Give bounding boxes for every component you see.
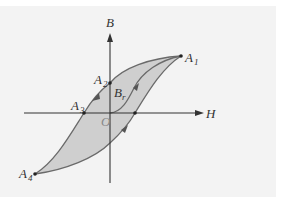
svg-text:A: A [184, 50, 193, 65]
point-a2 [108, 81, 112, 85]
svg-text:A: A [70, 98, 79, 113]
b-axis-arrow-icon [107, 33, 113, 42]
svg-text:A: A [18, 166, 27, 181]
label-a4: A 4 [18, 166, 33, 183]
label-a1: A 1 [184, 50, 199, 67]
h-axis-label: H [205, 106, 216, 121]
svg-text:3: 3 [79, 105, 85, 115]
b-axis-label: B [106, 15, 114, 30]
hysteresis-diagram: B H O A 1 A 2 B r A 3 A 4 [0, 0, 288, 197]
svg-text:A: A [93, 72, 102, 87]
svg-text:4: 4 [28, 173, 33, 183]
label-a2: A 2 [93, 72, 108, 89]
point-coercive-right [133, 111, 137, 115]
origin-label: O [101, 114, 111, 129]
point-a4 [33, 172, 37, 176]
label-a3: A 3 [70, 98, 85, 115]
h-axis-arrow-icon [195, 110, 204, 116]
svg-text:1: 1 [194, 57, 199, 67]
point-a1 [179, 54, 183, 58]
svg-text:B: B [114, 85, 122, 100]
svg-text:2: 2 [103, 79, 108, 89]
svg-text:r: r [122, 92, 126, 102]
